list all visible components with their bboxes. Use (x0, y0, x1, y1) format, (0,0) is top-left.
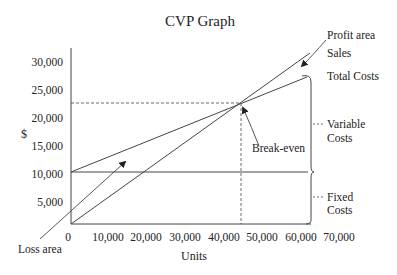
y-tick: 30,000 (31, 56, 63, 69)
x-tick-labels: 0 10,000 20,000 30,000 40,000 50,000 60,… (65, 231, 355, 244)
x-tick: 70,000 (323, 231, 355, 244)
y-tick: 15,000 (31, 140, 63, 153)
fixed-costs-label-2: Costs (327, 204, 353, 216)
total-costs-line (71, 77, 307, 172)
y-tick: 10,000 (31, 168, 63, 181)
sales-label: Sales (327, 47, 352, 59)
y-tick: 20,000 (31, 112, 63, 125)
y-axis-label: $ (21, 127, 27, 141)
profit-area-label: Profit area (327, 29, 375, 41)
variable-costs-label-2: Costs (327, 132, 353, 144)
y-tick: 25,000 (31, 84, 63, 97)
total-costs-label: Total Costs (327, 70, 379, 82)
x-tick: 40,000 (208, 231, 240, 244)
y-tick: 5,000 (37, 196, 63, 209)
sales-line (71, 53, 310, 224)
y-tick-labels: 30,000 25,000 20,000 15,000 10,000 5,000 (31, 56, 63, 209)
x-tick: 20,000 (130, 231, 162, 244)
x-axis-label: Units (181, 249, 207, 263)
fixed-costs-label-1: Fixed (327, 191, 353, 203)
x-tick: 60,000 (285, 231, 317, 244)
cvp-chart: CVP Graph 30,000 25,000 20,000 15,000 10… (0, 0, 397, 275)
loss-area-label: Loss area (18, 243, 62, 255)
x-tick: 10,000 (92, 231, 124, 244)
break-even-label: Break-even (252, 142, 305, 154)
x-tick: 50,000 (246, 231, 278, 244)
x-tick: 0 (65, 231, 71, 243)
profit-area-arrow (302, 40, 326, 66)
variable-costs-label-1: Variable (327, 118, 365, 130)
x-tick: 30,000 (169, 231, 201, 244)
chart-title: CVP Graph (165, 13, 235, 29)
break-even-arrow (243, 108, 259, 146)
